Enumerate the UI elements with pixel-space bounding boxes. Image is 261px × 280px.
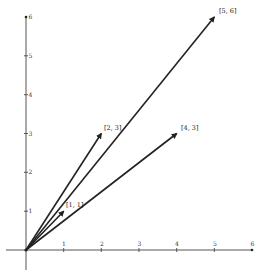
y-tick-label: 1 [29,207,33,214]
x-tick-label: 1 [62,240,66,247]
vector-label: [4, 3] [181,124,198,132]
x-tick-label: 2 [100,240,104,247]
vector-4-3 [26,134,177,251]
x-tick-label: 6 [251,240,255,247]
y-tick-label: 3 [29,130,33,137]
vector-label: [5, 6] [219,7,236,15]
vectors [24,17,214,252]
vector-2-3 [26,134,101,251]
y-tick-label: 2 [29,168,33,175]
vector-plot: 1 2 3 4 5 6 1 2 3 4 5 6 [1, 1] [2, 3] [4… [0,0,261,280]
y-tick-label: 5 [29,52,33,59]
y-ticks: 1 2 3 4 5 6 [24,13,33,215]
x-tick-label: 4 [175,240,179,247]
origin-point [24,248,27,251]
vector-label: [1, 1] [66,201,83,209]
x-tick-label: 5 [213,240,217,247]
vector-label: [2, 3] [104,124,121,132]
y-axis-end-point [25,16,28,19]
vector-5-6 [26,17,214,250]
y-tick-label: 4 [29,91,33,98]
x-axis-end-point [251,249,254,252]
y-tick-label: 6 [29,13,33,20]
vector-labels: [1, 1] [2, 3] [4, 3] [5, 6] [66,7,236,209]
x-tick-label: 3 [138,240,142,247]
